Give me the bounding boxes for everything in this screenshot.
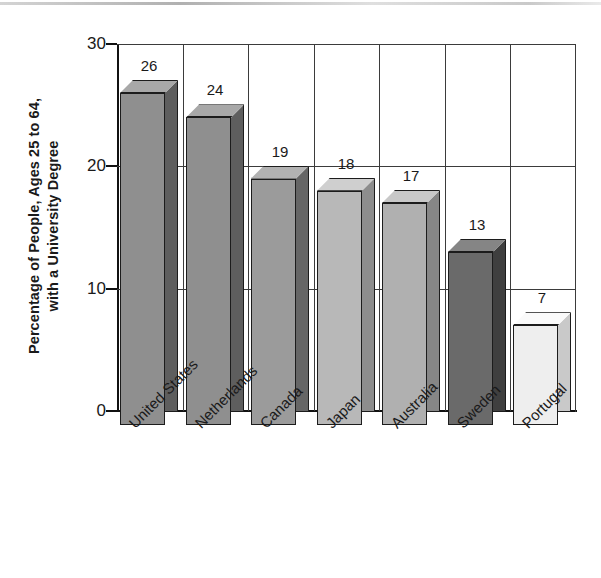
bar-value-canada: 19 bbox=[245, 144, 315, 159]
y-axis-title-line1: Percentage of People, Ages 25 to 64, bbox=[26, 98, 42, 354]
y-tick-mark-30 bbox=[106, 43, 117, 45]
bar-value-netherlands: 24 bbox=[180, 82, 250, 97]
y-tick-label-20: 20 bbox=[60, 157, 106, 174]
y-tick-10: 10 bbox=[50, 280, 106, 297]
bar-side-face bbox=[231, 104, 244, 412]
bar-united-states bbox=[120, 80, 178, 425]
y-tick-label-0: 0 bbox=[60, 402, 106, 419]
bar-value-australia: 17 bbox=[376, 168, 446, 183]
bar-front-face bbox=[186, 117, 231, 425]
y-tick-mark-0 bbox=[106, 410, 117, 412]
y-tick-mark-10 bbox=[106, 288, 117, 290]
y-tick-0: 0 bbox=[50, 402, 106, 419]
bar-value-sweden: 13 bbox=[442, 217, 512, 232]
y-tick-label-10: 10 bbox=[60, 280, 106, 297]
gridline-h-30 bbox=[117, 44, 576, 45]
bar-value-united-states: 26 bbox=[114, 58, 184, 73]
gridline-v-1 bbox=[183, 44, 184, 411]
plot-right-border bbox=[575, 44, 576, 412]
y-axis-title: Percentage of People, Ages 25 to 64, wit… bbox=[22, 38, 66, 414]
bar-value-japan: 18 bbox=[311, 156, 381, 171]
y-tick-label-30: 30 bbox=[60, 35, 106, 52]
y-tick-30: 30 bbox=[50, 35, 106, 52]
y-tick-20: 20 bbox=[50, 157, 106, 174]
gridline-v-3 bbox=[314, 44, 315, 411]
gridline-v-4 bbox=[379, 44, 380, 411]
bar-front-face bbox=[120, 93, 165, 425]
y-axis-line bbox=[117, 44, 119, 412]
gridline-v-2 bbox=[248, 44, 249, 411]
bar-chart: Percentage of People, Ages 25 to 64, wit… bbox=[0, 0, 601, 578]
y-tick-mark-20 bbox=[106, 165, 117, 167]
bar-value-portugal: 7 bbox=[507, 290, 577, 305]
bar-side-face bbox=[165, 80, 178, 412]
scan-artifact bbox=[0, 2, 601, 5]
